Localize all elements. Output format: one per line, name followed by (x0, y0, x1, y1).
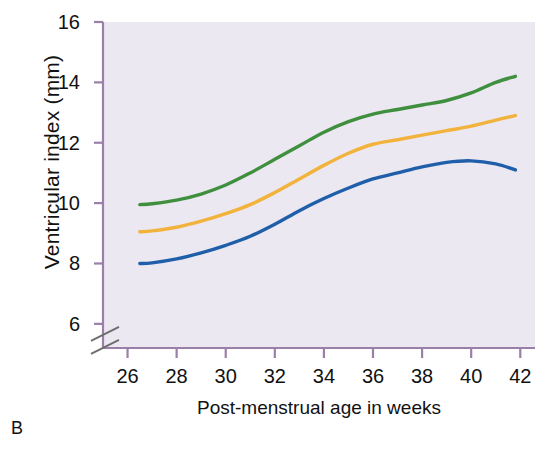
x-tick-label: 28 (157, 366, 197, 386)
x-tick-label: 42 (500, 366, 540, 386)
x-tick-label: 32 (255, 366, 295, 386)
x-tick-label: 38 (402, 366, 442, 386)
x-tick-label: 30 (206, 366, 246, 386)
x-tick-label: 26 (108, 366, 148, 386)
x-axis-title: Post-menstrual age in weeks (103, 397, 535, 419)
x-tick-label: 36 (353, 366, 393, 386)
y-axis-title: Ventricular index (mm) (40, 17, 64, 307)
figure-panel: 6810121416 262830323436384042 Ventricula… (0, 0, 557, 451)
x-tick-label-group: 262830323436384042 (0, 0, 557, 451)
x-tick-label: 40 (451, 366, 491, 386)
panel-label: B (11, 418, 23, 439)
x-tick-label: 34 (304, 366, 344, 386)
